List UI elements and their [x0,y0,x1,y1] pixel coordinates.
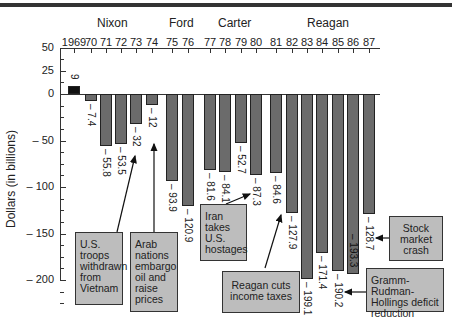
annotation-gramm-rudman: Gramm-Rudman-Hollings deficit reduction [366,268,444,312]
annotation-reagan-tax-cuts: Reagan cuts income taxes [222,271,300,313]
annotation-vietnam: U.S. troops withdrawn from Vietnam [75,232,123,305]
annotation-stock-crash: Stock market crash [389,216,443,261]
annotation-iran-hostages: Iran takes U.S. hostages [200,204,247,261]
annotation-oil-embargo: Arab nations embargo oil and raise price… [130,232,178,312]
